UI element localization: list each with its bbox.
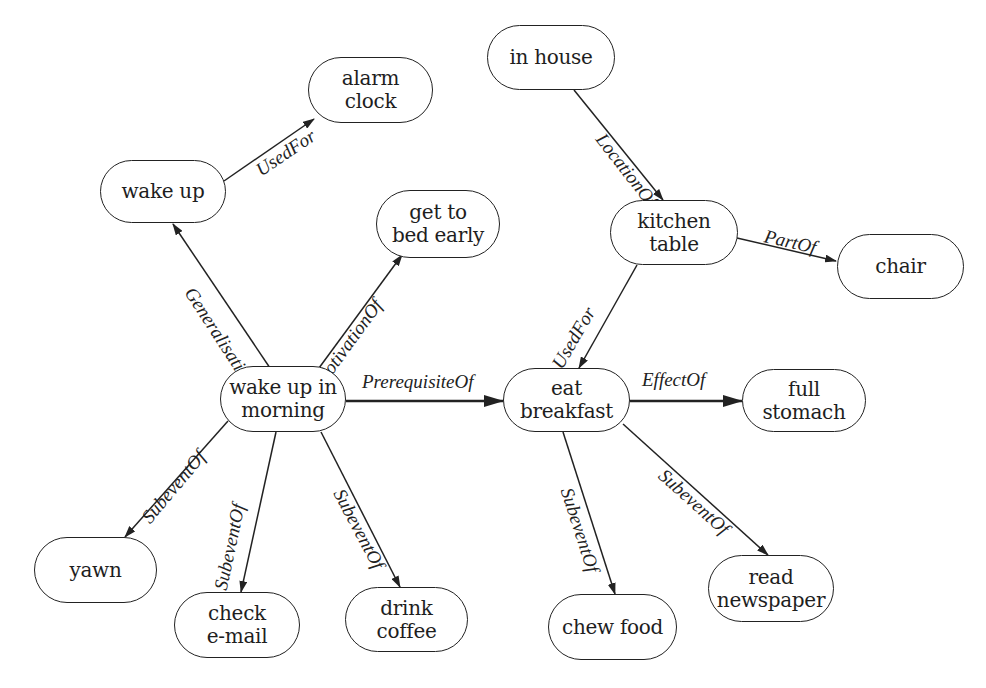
node-read-newspaper: read newspaper: [708, 555, 834, 622]
node-kitchen-table: kitchen table: [610, 200, 738, 265]
node-full-stomach: full stomach: [742, 369, 866, 432]
node-wake-up: wake up: [100, 160, 226, 223]
concept-graph: UsedForGeneralisationMotivationOfLocatio…: [0, 0, 986, 688]
node-drink-coffee: drink coffee: [345, 587, 468, 652]
edge-label-effectof: EffectOf: [642, 370, 705, 390]
node-alarm-clock: alarm clock: [308, 57, 433, 123]
node-in-house: in house: [487, 25, 615, 90]
node-check-email: check e-mail: [174, 592, 300, 658]
node-wake-up-in-morning: wake up in morning: [220, 366, 346, 432]
node-chew-food: chew food: [548, 594, 677, 660]
node-yawn: yawn: [34, 537, 157, 603]
node-chair: chair: [837, 234, 964, 299]
node-get-to-bed-early: get to bed early: [376, 190, 500, 258]
node-eat-breakfast: eat breakfast: [503, 368, 630, 432]
edge-label-prerequisiteof: PrerequisiteOf: [362, 372, 474, 392]
